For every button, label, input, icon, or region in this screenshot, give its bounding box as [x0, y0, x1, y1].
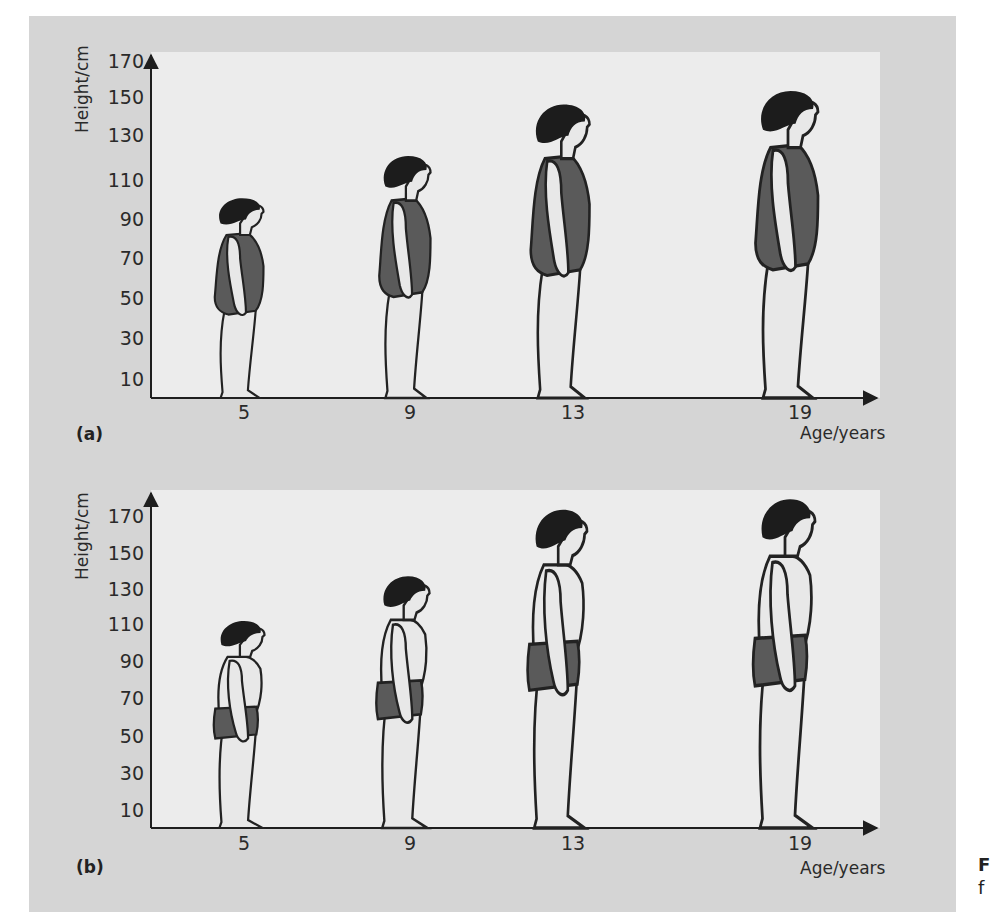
boy-figure-age-19: [753, 499, 815, 828]
girl-figure-age-13: [531, 104, 590, 398]
girl-figure-age-5: [215, 198, 264, 398]
boy-figure-age-5: [214, 621, 265, 828]
girl-figure-age-19: [756, 91, 819, 398]
girl-figure-age-9: [379, 156, 430, 398]
boy-figure-age-9: [376, 576, 429, 828]
boy-figure-age-13: [528, 510, 587, 828]
